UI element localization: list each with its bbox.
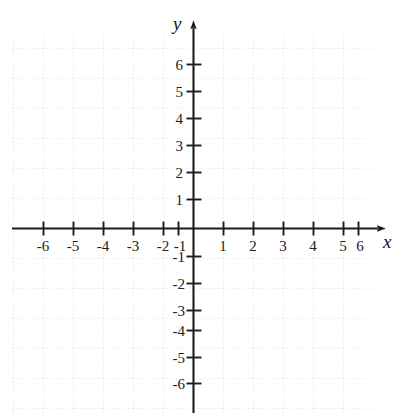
x-tick-label: -3 (127, 239, 140, 254)
x-axis-label: x (383, 232, 391, 251)
x-tick-label: 6 (356, 239, 364, 254)
x-tick-label: -6 (37, 239, 50, 254)
y-tick-label: -5 (173, 351, 186, 366)
x-tick-label: 1 (219, 239, 227, 254)
x-tick-label: -2 (157, 239, 170, 254)
y-tick-label: -2 (173, 277, 186, 292)
y-tick-label: -3 (173, 304, 186, 319)
y-tick-label: 6 (176, 58, 184, 73)
x-tick-label: -4 (97, 239, 110, 254)
y-tick-label: 4 (176, 112, 184, 127)
coordinate-grid-figure: -6 -5 -4 -3 -2 -1 1 2 3 4 5 6 6 5 4 3 2 … (0, 0, 404, 413)
y-tick-label: -1 (173, 250, 186, 265)
y-tick-label: -4 (173, 324, 186, 339)
y-tick-label: -6 (173, 377, 186, 392)
y-tick-label: 2 (176, 166, 184, 181)
y-tick-label: 3 (176, 139, 184, 154)
x-tick-label: 4 (309, 239, 317, 254)
x-tick-label: 2 (249, 239, 257, 254)
y-tick-label: 1 (176, 193, 184, 208)
x-tick-label: 3 (279, 239, 287, 254)
y-tick-label: 5 (176, 85, 184, 100)
coordinate-plane-svg (0, 0, 404, 413)
x-tick-label: -5 (67, 239, 80, 254)
y-axis-label: y (173, 14, 181, 33)
grid-lines (11, 30, 373, 413)
x-tick-label: 5 (339, 239, 347, 254)
